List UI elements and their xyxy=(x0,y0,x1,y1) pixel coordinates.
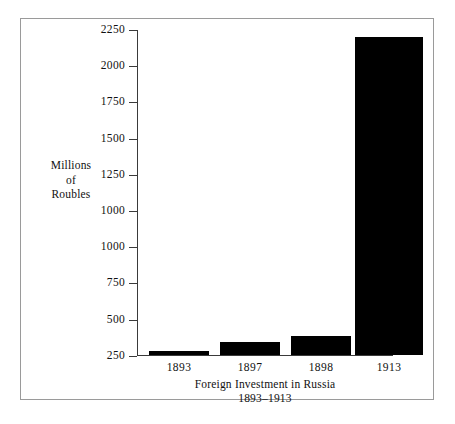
bar-1898[interactable] xyxy=(291,336,351,355)
y-tick-mark xyxy=(129,247,137,248)
bar-1913[interactable] xyxy=(355,37,423,355)
x-tick-label-1913: 1913 xyxy=(377,362,402,374)
y-tick-label: 1500 xyxy=(101,133,125,145)
y-tick-label: 500 xyxy=(107,314,125,326)
y-tick-mark xyxy=(129,139,137,140)
y-tick-mark xyxy=(129,175,137,176)
y-tick-mark xyxy=(129,320,137,321)
y-tick-label: 1000 xyxy=(101,241,125,253)
y-tick-mark xyxy=(129,102,137,103)
chart-caption: Foreign Investment in Russia 1893–1913 xyxy=(137,377,393,406)
y-axis-title-line-1: Millions xyxy=(40,158,102,173)
y-tick-mark xyxy=(129,211,137,212)
y-tick-mark xyxy=(129,356,137,357)
x-tick-label-1897: 1897 xyxy=(238,362,263,374)
y-tick-label: 750 xyxy=(107,278,125,290)
y-tick-label: 1000 xyxy=(101,205,125,217)
y-tick-label: 2250 xyxy=(101,24,125,36)
y-tick-mark xyxy=(129,66,137,67)
bar-1897[interactable] xyxy=(220,342,280,355)
y-tick-label: 1250 xyxy=(101,169,125,181)
chart-page: Millions of Roubles 2250 2000 1750 1500 … xyxy=(0,0,455,424)
caption-title: Foreign Investment in Russia xyxy=(137,377,393,391)
y-axis-title-line-2: of xyxy=(40,173,102,188)
caption-years: 1893–1913 xyxy=(137,391,393,405)
plot-area: 2250 2000 1750 1500 1250 1000 1000 750 xyxy=(137,30,393,356)
y-axis-title-line-3: Roubles xyxy=(40,187,102,202)
x-tick-label-1893: 1893 xyxy=(167,362,192,374)
y-tick-mark xyxy=(129,30,137,31)
y-tick-label: 1750 xyxy=(101,97,125,109)
y-tick-label: 250 xyxy=(107,350,125,362)
y-axis-title: Millions of Roubles xyxy=(40,158,102,202)
y-axis-line xyxy=(137,30,138,356)
x-axis-line xyxy=(137,355,393,356)
x-tick-label-1898: 1898 xyxy=(309,362,334,374)
bar-1893[interactable] xyxy=(149,351,209,355)
y-tick-label: 2000 xyxy=(101,60,125,72)
y-tick-mark xyxy=(129,283,137,284)
